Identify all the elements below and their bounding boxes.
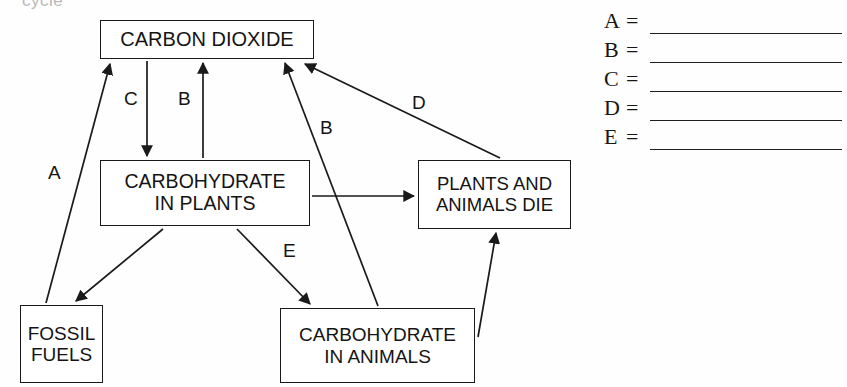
answer-row-a: A = <box>604 8 842 37</box>
answer-letter-c: C <box>604 66 626 92</box>
arrow-plants-to-fossil <box>76 229 163 301</box>
answer-equals-b: = <box>626 37 650 63</box>
arrow-label-b-right: B <box>320 118 333 137</box>
answer-letter-d: D <box>604 95 626 121</box>
node-carbon-dioxide: CARBON DIOXIDE <box>100 20 314 59</box>
node-carbohydrate-in-plants-line-2: IN PLANTS <box>155 193 256 215</box>
node-carbon-dioxide-line-1: CARBON DIOXIDE <box>120 28 293 50</box>
node-carbohydrate-in-plants-line-1: CARBOHYDRATE <box>124 171 285 193</box>
answer-row-c: C = <box>604 66 842 95</box>
arrow-label-a: A <box>48 163 61 182</box>
node-fossil-fuels: FOSSIL FUELS <box>20 305 103 383</box>
answer-equals-a: = <box>626 8 650 34</box>
node-fossil-fuels-line-2: FUELS <box>31 344 92 365</box>
arrow-label-e: E <box>283 241 296 260</box>
answer-row-b: B = <box>604 37 842 66</box>
node-plants-and-animals-die: PLANTS AND ANIMALS DIE <box>418 160 571 229</box>
node-carbohydrate-in-animals-line-2: IN ANIMALS <box>324 346 431 367</box>
arrow-label-c: C <box>124 89 138 108</box>
answer-key-list: A = B = C = D = E = <box>604 8 842 153</box>
arrow-e-plants-to-animals <box>237 229 310 304</box>
answer-letter-b: B <box>604 37 626 63</box>
answer-blank-d[interactable] <box>650 120 842 121</box>
node-carbohydrate-in-animals: CARBOHYDRATE IN ANIMALS <box>280 308 475 383</box>
arrow-animals-to-die <box>478 233 496 337</box>
arrow-d-die-to-co2 <box>305 64 500 158</box>
node-carbohydrate-in-plants: CARBOHYDRATE IN PLANTS <box>100 160 310 226</box>
node-plants-and-animals-die-line-1: PLANTS AND <box>437 174 552 195</box>
arrow-label-b-left: B <box>178 89 191 108</box>
worksheet-page: cycle CARBON DIOXIDE CARBOHYDRATE <box>0 0 847 387</box>
answer-letter-e: E <box>604 124 626 150</box>
node-carbohydrate-in-animals-line-1: CARBOHYDRATE <box>299 324 456 345</box>
answer-equals-d: = <box>626 95 650 121</box>
answer-row-d: D = <box>604 95 842 124</box>
answer-blank-a[interactable] <box>650 33 842 34</box>
arrow-label-d: D <box>412 93 426 112</box>
node-fossil-fuels-line-1: FOSSIL <box>28 323 96 344</box>
answer-equals-e: = <box>626 124 650 150</box>
answer-letter-a: A <box>604 8 626 34</box>
answer-blank-e[interactable] <box>650 149 842 150</box>
answer-blank-b[interactable] <box>650 62 842 63</box>
answer-equals-c: = <box>626 66 650 92</box>
answer-row-e: E = <box>604 124 842 153</box>
answer-blank-c[interactable] <box>650 91 842 92</box>
node-plants-and-animals-die-line-2: ANIMALS DIE <box>436 195 553 216</box>
